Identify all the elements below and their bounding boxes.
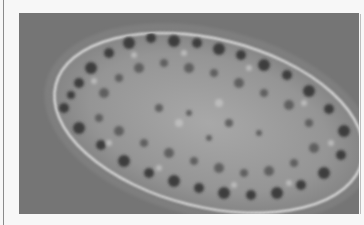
micrograph-photo (19, 13, 359, 214)
ciliate-cell-illustration (19, 13, 359, 214)
right-border-line (360, 14, 361, 214)
left-border-line (3, 0, 4, 225)
